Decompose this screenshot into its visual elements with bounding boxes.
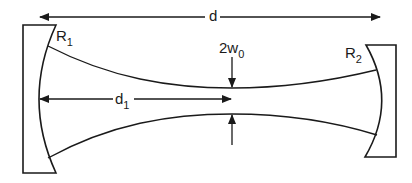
mirror2-radius-text: R — [345, 44, 356, 61]
beam-lower-envelope — [48, 114, 377, 158]
mirror2-radius-sub: 2 — [356, 53, 362, 65]
waist-distance-label: d1 — [115, 91, 129, 106]
waist-distance-sub: 1 — [123, 99, 129, 111]
waist-width-label: 2w0 — [219, 40, 244, 55]
mirror2-radius-label: R2 — [345, 45, 362, 60]
beam-upper-envelope — [48, 46, 376, 88]
right-mirror — [365, 45, 396, 157]
total-length-label: d — [206, 8, 220, 23]
mirror1-radius-label: R1 — [56, 28, 73, 43]
waist-width-sub: 0 — [238, 48, 244, 60]
total-length-text: d — [209, 7, 217, 24]
mirror1-radius-text: R — [56, 27, 67, 44]
waist-width-text: 2w — [219, 39, 238, 56]
mirror1-radius-sub: 1 — [67, 36, 73, 48]
